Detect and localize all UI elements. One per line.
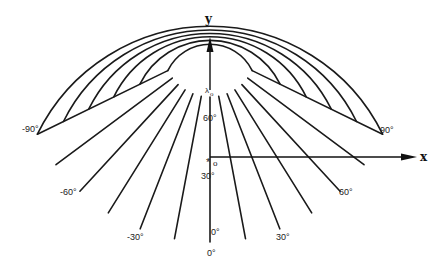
meridian-line [227,94,280,229]
longitude-minus30-label: -30° [127,232,144,242]
x-axis-arrowhead-icon [401,154,417,161]
meridian-line [80,85,178,192]
longitude-90-label: 90° [380,125,394,135]
meridian-line [56,78,172,165]
meridian-line [108,90,185,213]
meridian-line [175,96,202,239]
meridian-line [242,85,340,192]
meridian-line [248,78,364,165]
longitude-minus90-label: -90° [22,124,39,134]
x-axis-label: x [420,150,428,164]
meridian-line [140,94,193,229]
lambda0-label: λ [205,86,209,95]
meridian-line [219,96,246,239]
longitude-60-label: 60° [339,187,353,197]
longitude-minus60-label: -60° [60,187,77,197]
latitude-0-label: 0° [211,227,220,237]
longitude-30-label: 30° [276,232,290,242]
longitude-0-label: 0° [207,248,216,258]
y-axis-label: y [204,12,213,26]
origin-subscript: o [213,158,218,168]
lambda0-subscript: o [210,90,214,98]
latitude-30-label: 30° [201,171,215,181]
origin-marker: * [206,156,211,168]
conic-projection-diagram: y x λ o * o 60° 30° 0° 0° -30° 30° -60° … [0,0,448,273]
meridian-line [235,90,312,213]
latitude-60-label: 60° [203,113,217,123]
